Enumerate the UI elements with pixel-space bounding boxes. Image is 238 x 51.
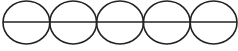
tangent-circles-diagram [0, 0, 238, 51]
